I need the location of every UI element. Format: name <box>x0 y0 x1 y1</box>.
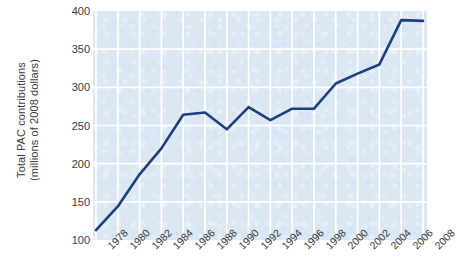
x-tick-label: 1992 <box>258 243 266 251</box>
y-tick-label: 400 <box>56 5 90 17</box>
x-tick-label: 1978 <box>105 243 113 251</box>
x-tick-label: 2006 <box>410 243 418 251</box>
horizontal-gridlines <box>93 49 427 202</box>
y-axis-label-line2: (millions of 2008 dollars) <box>28 59 41 181</box>
y-tick-label: 250 <box>56 120 90 132</box>
y-tick-label: 150 <box>56 196 90 208</box>
x-tick-label: 1996 <box>301 243 309 251</box>
x-tick-label: 1988 <box>214 243 222 251</box>
x-tick-label: 1986 <box>192 243 200 251</box>
x-tick-label: 2004 <box>388 243 396 251</box>
x-tick-label: 2000 <box>345 243 353 251</box>
x-tick-label: 2008 <box>432 243 440 251</box>
y-axis-label-line1: Total PAC contributions <box>15 59 28 181</box>
x-tick-label: 2002 <box>367 243 375 251</box>
x-tick-label: 1998 <box>323 243 331 251</box>
x-tick-label: 1984 <box>170 243 178 251</box>
plot-area <box>93 11 427 240</box>
y-tick-label: 200 <box>56 158 90 170</box>
y-axis-tick-labels: 100150200250300350400 <box>54 0 90 259</box>
y-tick-label: 300 <box>56 81 90 93</box>
x-tick-label: 1990 <box>236 243 244 251</box>
x-axis-tick-labels: 1978198019821984198619881990199219941996… <box>0 243 448 259</box>
plot-graphics <box>93 11 427 240</box>
x-tick-label: 1982 <box>149 243 157 251</box>
y-tick-label: 350 <box>56 43 90 55</box>
x-tick-label: 1980 <box>127 243 135 251</box>
x-tick-label: 1994 <box>279 243 287 251</box>
y-axis-label: Total PAC contributions (millions of 200… <box>0 0 56 240</box>
